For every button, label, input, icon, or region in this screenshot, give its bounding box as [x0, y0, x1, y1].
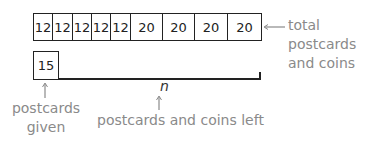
total-label: total postcards and coins — [288, 16, 392, 73]
given-label-line2: given away — [11, 118, 81, 143]
total-label-line2: and coins — [288, 54, 392, 73]
given-label-line1: postcards — [11, 99, 81, 118]
unknown-n: n — [160, 78, 169, 94]
given-away-value: 15 — [38, 58, 55, 73]
given-away-label: postcards given away — [11, 99, 81, 143]
remaining-label: postcards and coins left — [97, 111, 264, 130]
total-label-line1: total postcards — [288, 16, 392, 54]
given-away-box: 15 — [33, 51, 59, 80]
remaining-bracket-end-tick — [259, 72, 261, 80]
remaining-bracket — [58, 78, 260, 80]
